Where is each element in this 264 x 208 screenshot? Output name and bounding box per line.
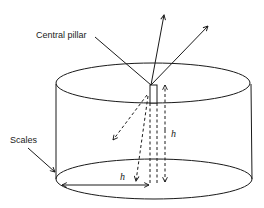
scales-label: Scales <box>10 136 37 145</box>
dashed-slanted-down-arrow <box>136 96 148 181</box>
cylinder-right-wall <box>251 84 252 179</box>
scales-leader-arrow <box>28 148 55 172</box>
bottom-ellipse <box>56 159 252 199</box>
ray-arrow-1 <box>151 15 164 85</box>
central-pillar-leader <box>95 37 151 85</box>
h-horizontal-label: h <box>120 172 125 182</box>
ray-arrow-2 <box>151 26 208 85</box>
central-pillar-label: Central pillar <box>36 31 87 40</box>
central-pillar <box>150 85 157 103</box>
h-vertical-label: h <box>171 129 176 139</box>
